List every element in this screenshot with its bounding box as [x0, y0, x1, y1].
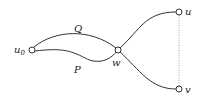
- label-Q: Q: [74, 23, 82, 34]
- node-v: [176, 86, 182, 92]
- label-u0: u0: [14, 44, 25, 57]
- label-P: P: [73, 64, 81, 75]
- label-w: w: [112, 57, 121, 68]
- label-v: v: [185, 84, 191, 95]
- edge-P: [35, 50, 116, 62]
- edge-w-u: [120, 12, 176, 48]
- node-w: [115, 47, 121, 53]
- label-u: u: [185, 6, 191, 17]
- edge-w-v: [120, 52, 176, 89]
- node-u: [176, 9, 182, 15]
- graph-diagram: u0 w u v Q P: [0, 0, 203, 100]
- node-u0: [29, 47, 35, 53]
- edge-Q: [34, 34, 116, 48]
